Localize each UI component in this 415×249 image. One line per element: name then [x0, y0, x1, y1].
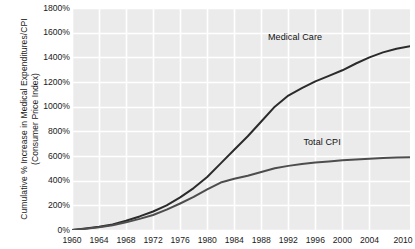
- x-tick-label: 2010: [393, 236, 412, 245]
- y-tick-label: 1000%: [26, 102, 70, 111]
- series-label-total-cpi: Total CPI: [303, 137, 340, 147]
- x-tick-label: 2004: [360, 236, 379, 245]
- series-lines: [72, 46, 410, 230]
- x-tick-label: 1992: [279, 236, 298, 245]
- x-tick-label: 1984: [225, 236, 244, 245]
- x-tick-label: 2000: [333, 236, 352, 245]
- y-tick-label: 0%: [26, 226, 70, 235]
- plot-svg: [72, 8, 410, 230]
- x-tick-label: 1960: [62, 236, 81, 245]
- y-tick-label: 1400%: [26, 53, 70, 62]
- y-tick-label: 200%: [26, 201, 70, 210]
- x-tick-label: 1976: [171, 236, 190, 245]
- series-line-total-cpi: [72, 157, 410, 230]
- series-line-medical-care: [72, 46, 410, 230]
- y-tick-label: 1600%: [26, 28, 70, 37]
- y-tick-label: 1800%: [26, 4, 70, 13]
- series-label-medical-care: Medical Care: [268, 32, 322, 42]
- y-tick-label: 800%: [26, 127, 70, 136]
- y-tick-label: 400%: [26, 176, 70, 185]
- plot-area: [72, 8, 410, 230]
- horizontal-gridlines: [72, 9, 410, 231]
- vertical-gridlines: [73, 8, 370, 230]
- x-tick-label: 1996: [306, 236, 325, 245]
- chart-container: Cumulative % Increase in Medical Expendi…: [0, 0, 415, 249]
- x-tick-label: 1980: [198, 236, 217, 245]
- x-tick-label: 1988: [252, 236, 271, 245]
- y-axis-tick-labels: 1800%1600%1400%1200%1000%800%600%400%200…: [24, 0, 70, 249]
- x-tick-label: 1968: [117, 236, 136, 245]
- x-tick-label: 1972: [144, 236, 163, 245]
- x-tick-label: 1964: [89, 236, 108, 245]
- y-tick-label: 1200%: [26, 78, 70, 87]
- y-tick-label: 600%: [26, 152, 70, 161]
